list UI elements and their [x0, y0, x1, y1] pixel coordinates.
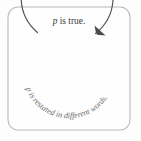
circular-reasoning-figure: p is true. p is restated in different wo… [0, 0, 141, 141]
top-label-predicate: is true. [57, 16, 85, 26]
top-label-text: p is true. [52, 16, 86, 26]
figure-canvas: p is true. p is restated in different wo… [0, 0, 141, 141]
